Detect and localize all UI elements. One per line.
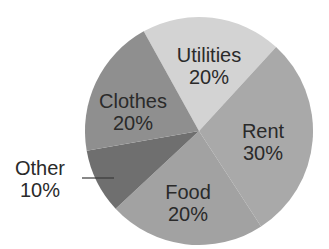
label-clothes-value: 20% — [113, 112, 153, 134]
label-food-value: 20% — [168, 203, 208, 225]
pie-chart: Utilities 20% Rent 30% Food 20% Clothes … — [0, 0, 329, 249]
pie-chart-svg: Utilities 20% Rent 30% Food 20% Clothes … — [0, 0, 329, 249]
label-food-name: Food — [165, 181, 211, 203]
label-utilities-value: 20% — [189, 66, 229, 88]
label-other-name: Other — [15, 157, 65, 179]
label-other-value: 10% — [20, 179, 60, 201]
label-rent-name: Rent — [242, 120, 285, 142]
label-utilities-name: Utilities — [177, 44, 241, 66]
label-clothes-name: Clothes — [99, 90, 167, 112]
label-rent-value: 30% — [243, 142, 283, 164]
